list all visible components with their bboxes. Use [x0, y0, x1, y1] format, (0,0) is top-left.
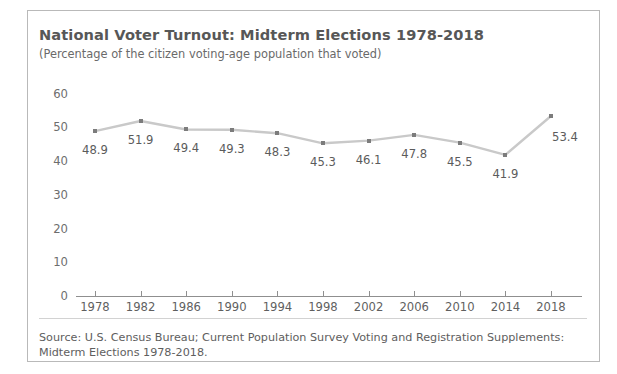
data-point-marker [184, 127, 188, 131]
data-point-label: 47.8 [401, 147, 427, 161]
footer-divider [39, 318, 587, 319]
y-axis-tick-label: 50 [53, 120, 68, 134]
y-axis-tick-label: 20 [53, 222, 68, 236]
source-note-line-1: Source: U.S. Census Bureau; Current Popu… [39, 330, 584, 345]
data-point-marker [321, 141, 325, 145]
x-axis-tick-label: 1978 [80, 300, 110, 314]
x-axis-tick-mark [323, 291, 324, 296]
x-axis-tick-label: 2006 [399, 300, 429, 314]
x-axis-tick-label: 2014 [491, 300, 521, 314]
data-point-marker [367, 139, 371, 143]
x-axis-tick-mark [141, 291, 142, 296]
y-axis-tick-label: 10 [53, 255, 68, 269]
data-point-marker [503, 153, 507, 157]
x-axis-tick-label: 1990 [217, 300, 247, 314]
data-point-marker [549, 114, 553, 118]
x-axis-tick-mark [95, 291, 96, 296]
source-note: Source: U.S. Census Bureau; Current Popu… [39, 330, 584, 360]
x-axis-tick-label: 1994 [263, 300, 293, 314]
x-axis-tick-label: 1986 [171, 300, 201, 314]
source-note-line-2: Midterm Elections 1978-2018. [39, 345, 584, 360]
data-point-label: 49.3 [219, 142, 245, 156]
x-axis-tick-mark [460, 291, 461, 296]
x-axis-tick-mark [414, 291, 415, 296]
x-axis-tick-mark [551, 291, 552, 296]
x-axis-tick-mark [277, 291, 278, 296]
x-axis-tick-label: 2018 [536, 300, 566, 314]
data-point-label: 48.3 [264, 145, 290, 159]
data-point-label: 48.9 [82, 143, 108, 157]
data-point-label: 51.9 [128, 133, 154, 147]
data-point-label: 45.5 [447, 155, 473, 169]
x-axis-line [76, 296, 582, 297]
data-point-marker [275, 131, 279, 135]
data-point-marker [93, 129, 97, 133]
x-axis-tick-label: 1982 [126, 300, 156, 314]
data-point-label: 45.3 [310, 155, 336, 169]
x-axis-tick-label: 1998 [308, 300, 338, 314]
data-point-marker [230, 128, 234, 132]
chart-figure: National Voter Turnout: Midterm Election… [0, 0, 617, 374]
y-axis-tick-label: 60 [53, 87, 68, 101]
data-point-label: 46.1 [356, 153, 382, 167]
chart-title: National Voter Turnout: Midterm Election… [39, 26, 484, 43]
x-axis-tick-label: 2010 [445, 300, 475, 314]
data-point-label: 49.4 [173, 141, 199, 155]
chart-subtitle: (Percentage of the citizen voting-age po… [39, 47, 382, 61]
data-point-marker [139, 119, 143, 123]
y-axis-tick-label: 30 [53, 188, 68, 202]
y-axis-tick-label: 40 [53, 154, 68, 168]
data-point-marker [412, 133, 416, 137]
x-axis-tick-label: 2002 [354, 300, 384, 314]
x-axis-tick-mark [505, 291, 506, 296]
y-axis-tick-label: 0 [61, 289, 68, 303]
data-point-label: 41.9 [492, 167, 518, 181]
data-point-label: 53.4 [552, 130, 578, 144]
data-point-marker [458, 141, 462, 145]
x-axis-tick-mark [232, 291, 233, 296]
x-axis-tick-mark [369, 291, 370, 296]
x-axis-tick-mark [186, 291, 187, 296]
